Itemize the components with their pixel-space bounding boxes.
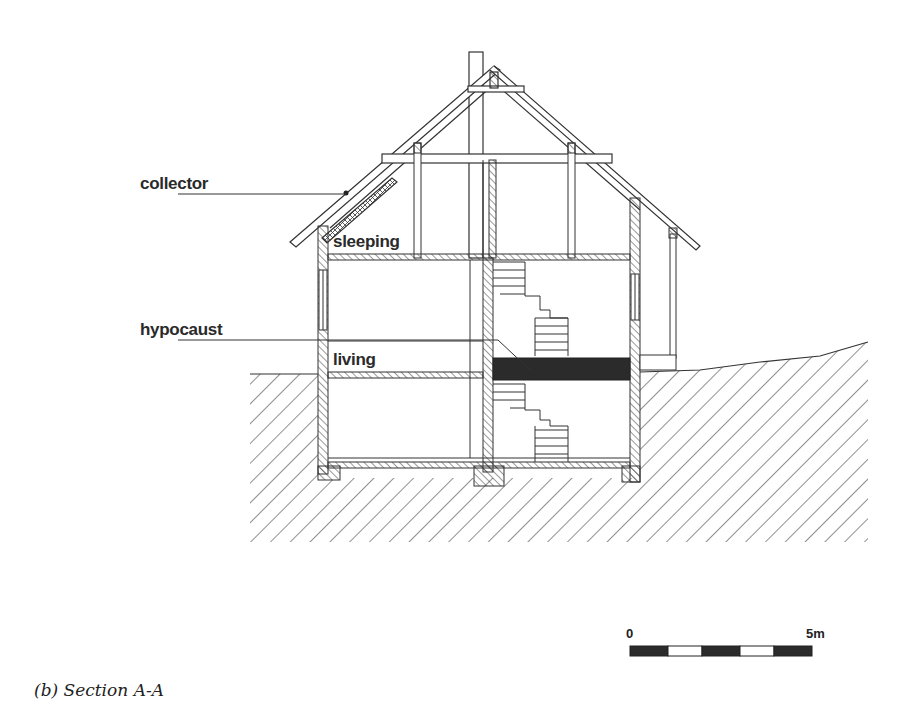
scale-start-label: 0	[626, 626, 633, 641]
label-hypocaust: hypocaust	[140, 320, 222, 340]
porch	[640, 228, 677, 370]
label-living: living	[333, 350, 376, 370]
section-drawing	[0, 0, 907, 727]
label-collector: collector	[140, 174, 208, 194]
scale-bar	[630, 646, 812, 656]
scale-end-label: 5m	[806, 626, 825, 641]
label-sleeping: sleeping	[333, 232, 400, 252]
hypocaust-slab	[493, 358, 630, 380]
figure-caption: (b) Section A-A	[34, 680, 164, 700]
